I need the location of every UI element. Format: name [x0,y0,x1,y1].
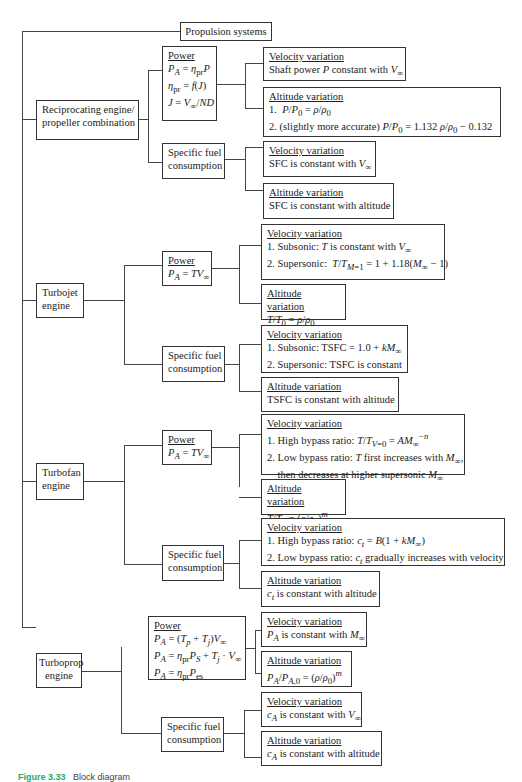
connector [239,540,261,541]
turbojet-power-velocity-variation: Velocity variation 1. Subsonic: T is con… [261,224,445,280]
connector [245,190,263,191]
engine-node-turboprop: Turboprop engine [36,653,82,688]
connector [148,162,162,163]
connector [22,119,36,120]
connector [22,31,180,32]
connector [148,70,149,162]
connector [239,434,240,487]
connector [84,300,124,301]
connector [239,344,240,391]
turbofan-power-node: Power PA = TV∞ [162,430,212,465]
turbojet-fuel-altitude-variation: Altitude variation TSFC is constant with… [261,377,399,412]
figure-label: Figure 3.33 [18,772,66,782]
connector [212,268,239,269]
connector [124,265,162,266]
connector [124,445,162,446]
root-node-propulsion-systems: Propulsion systems [180,22,272,41]
turbojet-fuel-node: Specific fuel consumption [162,346,225,382]
connector [239,245,240,303]
turbofan-power-velocity-variation: Velocity variation 1. High bypass ratio:… [261,414,465,475]
recip-fuel-velocity-variation: Velocity variation SFC is constant with … [263,141,376,177]
connector [244,710,261,711]
connector [239,588,261,589]
recip-fuel-altitude-variation: Altitude variation SFC is constant with … [263,183,394,219]
turbofan-fuel-node: Specific fuel consumption [162,545,224,581]
connector [245,63,246,108]
turboprop-power-altitude-variation: Altitude variation PA/PA,0 = (ρ/ρ0)m [261,651,352,687]
connector [255,630,256,673]
connector [239,303,263,304]
engine-node-turbojet: Turbojet engine [36,283,84,318]
connector [239,434,261,435]
turboprop-fuel-altitude-variation: Altitude variation cA is constant with a… [261,731,382,766]
connector [245,63,263,64]
root-label: Propulsion systems [185,26,266,37]
recip-power-velocity-variation: Velocity variation Shaft power P constan… [263,47,406,81]
turboprop-power-velocity-variation: Velocity variation PA is constant with M… [261,612,367,647]
connector [121,647,122,733]
turbojet-fuel-velocity-variation: Velocity variation 1. Subsonic: TSFC = 1… [261,325,408,373]
turbojet-power-node: Power PA = TV∞ [162,251,212,286]
connector [224,733,244,734]
turboprop-power-node: Power PA = (Tp + Tj)V∞ PA = ηprPS + Tj ·… [148,616,246,680]
connector [22,31,23,627]
engine-node-reciprocating: Reciprocating engine/ propeller combinat… [36,100,139,140]
recip-power-altitude-variation: Altitude variation 1. P/P0 = ρ/ρ0 2. (sl… [263,87,501,137]
connector [225,159,245,160]
figure-caption: Figure 3.33 Block diagram [18,772,130,782]
recip-fuel-node: Specific fuel consumption [162,143,225,179]
connector [212,447,239,448]
turbofan-fuel-velocity-variation: Velocity variation 1. High bypass ratio:… [261,518,505,566]
connector [139,119,148,120]
connector [84,481,124,482]
connector [245,147,246,190]
connector [124,364,162,365]
connector [245,147,263,148]
recip-power-node: Power PA = ηprP ηpr = f(J) J = V∞/ND [162,46,217,121]
connector [239,391,263,392]
turboprop-fuel-node: Specific fuel consumption [161,717,224,752]
connector [246,648,255,649]
connector [22,481,36,482]
connector [239,497,261,498]
connector [245,108,263,109]
turbofan-fuel-altitude-variation: Altitude variation ct is constant with a… [261,571,380,607]
connector [148,70,162,71]
connector [124,445,125,564]
connector [22,300,36,301]
connector [82,671,121,672]
connector [239,540,240,588]
engine-node-turbofan: Turbofan engine [36,463,84,500]
connector [22,627,36,628]
turbojet-power-altitude-variation: Altitude variation T/T0 = ρ/ρ0 [261,284,346,320]
connector [239,344,263,345]
connector [244,757,261,758]
connector [217,84,245,85]
connector [121,733,161,734]
figure-text: Block diagram [73,772,130,782]
connector [124,564,162,565]
turbofan-power-altitude-variation: Altitude variation T/T0 = (ρ/ρ0)m [261,479,346,515]
turboprop-fuel-velocity-variation: Velocity variation cA is constant with V… [261,692,362,727]
connector [239,245,263,246]
connector [124,265,125,364]
connector [225,364,239,365]
connector [224,563,239,564]
connector [244,710,245,757]
